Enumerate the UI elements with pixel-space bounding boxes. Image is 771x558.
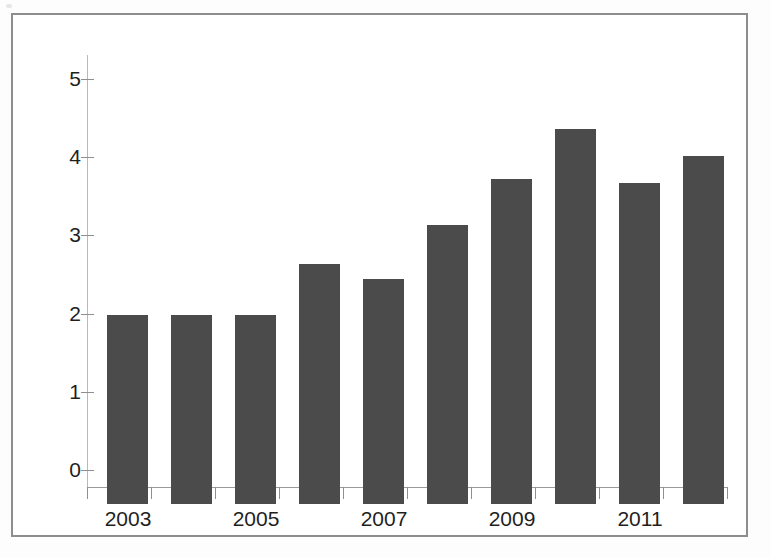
x-tick-label-2007: 2007 — [344, 507, 424, 531]
x-tick-3 — [279, 487, 280, 499]
chart-frame: 5 4 3 2 1 0 — [11, 13, 748, 537]
figure-canvas: 5 4 3 2 1 0 — [0, 0, 771, 558]
x-tick-4 — [343, 487, 344, 499]
x-tick-0 — [87, 487, 88, 499]
x-tick-2 — [215, 487, 216, 499]
x-tick-9 — [663, 487, 664, 499]
x-tick-label-2011: 2011 — [600, 507, 680, 531]
plot-area: 5 4 3 2 1 0 — [87, 55, 727, 487]
x-tick-8 — [599, 487, 600, 499]
bar-2003 — [107, 315, 148, 504]
y-tick-4 — [81, 157, 94, 158]
scan-speck — [6, 4, 12, 8]
x-tick-7 — [535, 487, 536, 499]
y-tick-label-2: 2 — [41, 302, 81, 326]
bar-2005 — [235, 315, 276, 504]
y-tick-3 — [81, 235, 94, 236]
bar-2012 — [683, 156, 724, 504]
y-tick-label-3: 3 — [41, 223, 81, 247]
x-tick-1 — [151, 487, 152, 499]
bar-2010 — [555, 129, 596, 504]
x-tick-label-2005: 2005 — [216, 507, 296, 531]
x-tick-label-2003: 2003 — [88, 507, 168, 531]
bar-2004 — [171, 315, 212, 504]
y-tick-0 — [81, 470, 94, 471]
x-tick-5 — [407, 487, 408, 499]
bar-2006 — [299, 264, 340, 504]
bar-2009 — [491, 179, 532, 504]
y-tick-label-0: 0 — [41, 458, 81, 482]
y-tick-label-5: 5 — [41, 67, 81, 91]
x-tick-label-2009: 2009 — [472, 507, 552, 531]
bar-2011 — [619, 183, 660, 504]
x-tick-6 — [471, 487, 472, 499]
y-tick-label-1: 1 — [41, 380, 81, 404]
y-axis-line — [87, 55, 88, 487]
bar-2008 — [427, 225, 468, 504]
y-tick-1 — [81, 392, 94, 393]
y-tick-label-4: 4 — [41, 145, 81, 169]
y-tick-2 — [81, 314, 94, 315]
x-tick-10 — [727, 487, 728, 499]
y-tick-5 — [81, 79, 94, 80]
bar-2007 — [363, 279, 404, 504]
